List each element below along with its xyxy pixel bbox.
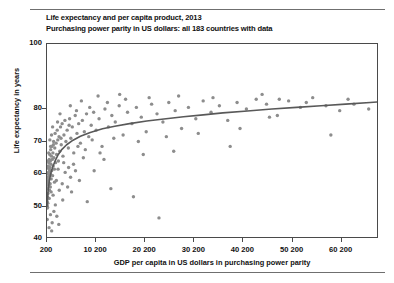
scatter-point <box>187 106 190 109</box>
scatter-point <box>126 111 129 114</box>
scatter-point <box>311 96 314 99</box>
scatter-point <box>69 104 72 107</box>
scatter-point <box>56 138 59 141</box>
scatter-point <box>137 140 140 143</box>
scatter-point <box>52 210 55 213</box>
scatter-point <box>86 200 89 203</box>
scatter-point <box>55 179 58 182</box>
scatter-point <box>255 98 258 101</box>
scatter-point <box>82 156 85 159</box>
y-axis-tick-mark <box>42 108 46 109</box>
scatter-point <box>150 102 153 105</box>
scatter-point <box>58 112 61 115</box>
scatter-point <box>177 94 180 97</box>
scatter-point <box>110 114 113 117</box>
scatter-point <box>50 229 53 232</box>
x-axis-tick-mark <box>242 238 243 242</box>
y-axis-tick-mark <box>42 173 46 174</box>
scatter-point <box>161 120 164 123</box>
scatter-plot-svg <box>47 44 378 238</box>
scatter-point <box>147 96 150 99</box>
y-axis-tick-label: 40 <box>18 234 42 242</box>
chart-title-block: Life expectancy and per capita product, … <box>46 13 376 34</box>
chart-subtitle: Purchasing power parity in US dollars: a… <box>46 24 376 35</box>
y-axis-title: Life expectancy in years <box>12 51 21 171</box>
scatter-point <box>57 159 60 162</box>
scatter-point <box>103 107 106 110</box>
scatter-point <box>67 146 70 149</box>
y-axis-tick-label: 50 <box>18 202 42 210</box>
scatter-point <box>112 137 115 140</box>
scatter-point <box>211 96 214 99</box>
scatter-point <box>59 137 62 140</box>
x-axis-tick-mark <box>193 238 194 242</box>
scatter-point <box>268 115 271 118</box>
scatter-point <box>56 120 59 123</box>
scatter-point <box>201 99 204 102</box>
scatter-point <box>67 166 70 169</box>
scatter-point <box>51 174 54 177</box>
scatter-point <box>142 153 145 156</box>
scatter-point <box>63 171 66 174</box>
scatter-point <box>367 107 370 110</box>
scatter-point <box>74 169 77 172</box>
scatter-point <box>69 176 72 179</box>
x-axis-tick-label: 60 200 <box>311 245 371 254</box>
scatter-point <box>48 138 51 141</box>
y-axis-tick-mark <box>42 206 46 207</box>
scatter-point <box>165 135 168 138</box>
scatter-point <box>64 140 67 143</box>
x-axis-tick-mark <box>341 238 342 242</box>
scatter-point <box>47 226 50 229</box>
scatter-point <box>276 114 279 117</box>
scatter-point <box>71 125 74 128</box>
scatter-point <box>69 137 72 140</box>
scatter-point <box>75 109 78 112</box>
scatter-point <box>51 151 54 154</box>
x-axis-tick-mark <box>95 238 96 242</box>
scatter-point <box>50 221 53 224</box>
scatter-point <box>109 187 112 190</box>
scatter-point <box>97 117 100 120</box>
scatter-point <box>65 128 68 131</box>
scatter-point <box>62 161 65 164</box>
scatter-point <box>78 179 81 182</box>
scatter-point <box>51 125 54 128</box>
scatter-point <box>140 115 143 118</box>
scatter-point <box>49 190 52 193</box>
scatter-point <box>54 203 57 206</box>
scatter-point <box>49 148 52 151</box>
scatter-point <box>124 98 127 101</box>
scatter-point <box>90 138 93 141</box>
scatter-point <box>63 119 66 122</box>
scatter-point <box>83 130 86 133</box>
scatter-point <box>287 99 290 102</box>
scatter-point <box>51 193 54 196</box>
x-axis-tick-mark <box>144 238 145 242</box>
scatter-point <box>72 151 75 154</box>
chart-figure: Life expectancy and per capita product, … <box>0 0 394 283</box>
scatter-point <box>77 122 80 125</box>
scatter-point <box>85 112 88 115</box>
y-axis-tick-label: 70 <box>18 137 42 145</box>
scatter-point <box>135 106 138 109</box>
x-axis-title: GDP per capita in US dollars in purchasi… <box>46 258 378 267</box>
scatter-point <box>57 223 60 226</box>
scatter-point <box>60 122 63 125</box>
scatter-point <box>329 133 332 136</box>
scatter-point <box>98 151 101 154</box>
scatter-point <box>49 145 52 148</box>
scatter-point <box>84 148 87 151</box>
scatter-point <box>228 145 231 148</box>
scatter-point <box>49 213 52 216</box>
scatter-point <box>96 94 99 97</box>
y-axis-tick-label: 80 <box>18 104 42 112</box>
chart-title: Life expectancy and per capita product, … <box>46 13 376 24</box>
top-divider-rule <box>30 9 385 10</box>
scatter-point <box>61 182 64 185</box>
scatter-point <box>47 218 49 221</box>
scatter-point <box>180 127 183 130</box>
scatter-point <box>121 133 124 136</box>
scatter-point <box>68 117 71 120</box>
scatter-point <box>72 163 75 166</box>
